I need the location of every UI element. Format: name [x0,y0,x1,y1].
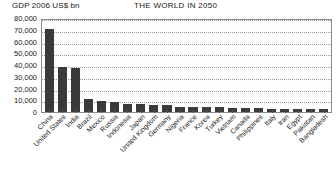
bar-slot [56,20,69,112]
bar-slot [291,20,304,112]
y-axis: 80,00070,00060,00050,00040,00030,00020,0… [0,18,40,114]
bar-slot [147,20,160,112]
bar[interactable] [58,67,67,112]
bar-series [42,20,331,112]
bar-slot [69,20,82,112]
y-axis-tick-label: 30,000 [14,72,37,81]
bar-slot [173,20,186,112]
y-axis-tick-label: 40,000 [14,61,37,70]
bar-slot [317,20,330,112]
bar-slot [187,20,200,112]
y-axis-tick-label: 60,000 [14,37,37,46]
x-axis-tick-label: Italy [263,113,277,127]
y-axis-tick-label: 10,000 [14,96,37,105]
y-axis-tick-label: 50,000 [14,49,37,58]
bar-slot [239,20,252,112]
y-axis-tick-label: 70,000 [14,25,37,34]
bar-slot [121,20,134,112]
x-axis-labels: ChinaUnited StatesIndiaBrazilMexicoRussi… [41,113,332,173]
bar-slot [95,20,108,112]
bar-slot [43,20,56,112]
bar-slot [134,20,147,112]
bar-slot [213,20,226,112]
plot-area [41,19,332,113]
bar-slot [226,20,239,112]
bar[interactable] [71,68,80,112]
bar[interactable] [45,29,54,112]
y-axis-tick-label: 0 [33,108,37,117]
y-axis-tick-label: 80,000 [14,14,37,23]
y-axis-title: GDP 2006 US$ bn [12,1,80,10]
bar-slot [265,20,278,112]
bar-slot [278,20,291,112]
y-axis-tick-label: 20,000 [14,84,37,93]
bar-slot [252,20,265,112]
bar-slot [108,20,121,112]
bar-slot [304,20,317,112]
bar-slot [160,20,173,112]
bar-slot [200,20,213,112]
chart-page: GDP 2006 US$ bn THE WORLD IN 2050 80,000… [0,0,336,173]
bar-slot [82,20,95,112]
chart-title: THE WORLD IN 2050 [134,1,217,10]
